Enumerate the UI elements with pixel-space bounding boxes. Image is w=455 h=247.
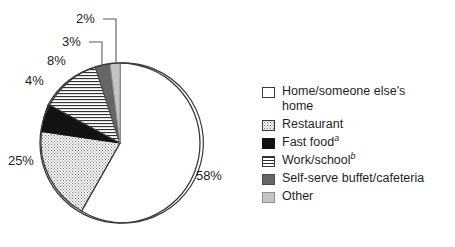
- legend-item-home: Home/someone else's home: [262, 84, 452, 114]
- legend-label-fast-food: Fast fooda: [282, 135, 339, 150]
- legend-item-restaurant: Restaurant: [262, 117, 452, 132]
- legend-footnote-marker-b: b: [351, 151, 356, 161]
- legend-label-home: Home/someone else's home: [282, 84, 405, 114]
- chart-legend: Home/someone else's home Restaurant Fast…: [262, 84, 452, 207]
- legend-label-other: Other: [282, 189, 313, 204]
- legend-label-self-serve-buffet: Self-serve buffet/cafeteria: [282, 171, 424, 186]
- legend-swatch-self-serve-buffet-icon: [262, 174, 275, 185]
- pie-label-58-percent: 58%: [196, 168, 222, 183]
- leader-line-2pct: [103, 19, 116, 63]
- legend-footnote-marker-a: a: [334, 133, 339, 143]
- pie-label-8-percent: 8%: [47, 53, 66, 68]
- leader-line-3pct: [89, 42, 102, 66]
- legend-item-self-serve-buffet: Self-serve buffet/cafeteria: [262, 171, 452, 186]
- legend-label-fast-food-text: Fast food: [282, 135, 334, 149]
- pie-label-25-percent: 25%: [8, 153, 34, 168]
- pie-label-4-percent: 4%: [25, 73, 44, 88]
- legend-swatch-fast-food-icon: [262, 138, 275, 149]
- cropped-caption-sliver: [8, 242, 238, 247]
- legend-item-work-school: Work/schoolb: [262, 153, 452, 168]
- legend-swatch-home-icon: [262, 87, 275, 98]
- legend-label-restaurant: Restaurant: [282, 117, 343, 132]
- pie-chart-figure: 58% 25% 4% 8% 3% 2% Home/someone else's …: [0, 0, 455, 247]
- legend-swatch-other-icon: [262, 192, 275, 203]
- legend-swatch-restaurant-icon: [262, 120, 275, 131]
- legend-label-work-school: Work/schoolb: [282, 153, 356, 168]
- legend-label-work-school-text: Work/school: [282, 153, 351, 167]
- pie-label-3-percent: 3%: [62, 34, 81, 49]
- pie-svg: [0, 0, 250, 240]
- legend-item-fast-food: Fast fooda: [262, 135, 452, 150]
- legend-swatch-work-school-icon: [262, 156, 275, 167]
- pie-chart-graphic: [0, 0, 250, 240]
- pie-label-2-percent: 2%: [76, 11, 95, 26]
- legend-item-other: Other: [262, 189, 452, 204]
